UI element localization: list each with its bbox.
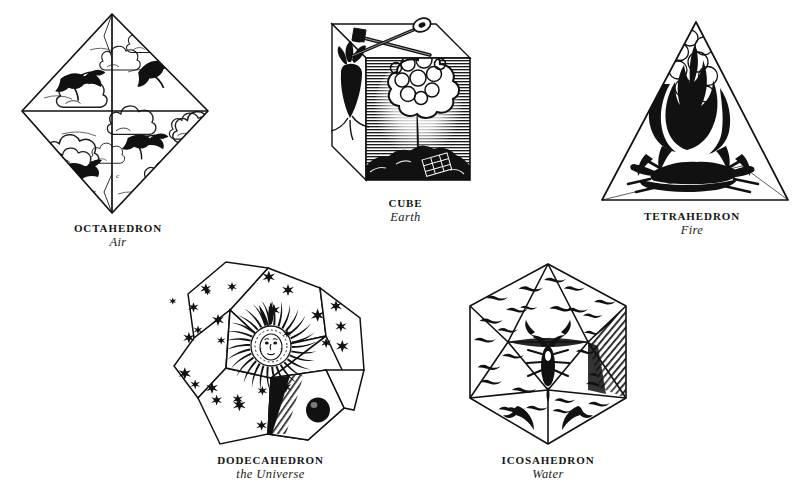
- figure-cube: CUBE Earth: [318, 6, 493, 224]
- cube-front-face: [366, 50, 470, 180]
- icosahedron-illustration: [448, 258, 648, 453]
- sun-face: [260, 334, 282, 360]
- dodecahedron-illustration: [168, 258, 373, 453]
- solid-element: Air: [74, 236, 162, 249]
- caption-octahedron: OCTAHEDRON Air: [74, 223, 162, 249]
- solid-name: OCTAHEDRON: [74, 223, 162, 235]
- svg-text:c: c: [116, 172, 119, 180]
- caption-tetrahedron: TETRAHEDRON Fire: [644, 211, 740, 237]
- octahedron-illustration: c: [8, 6, 228, 221]
- solid-element: Water: [501, 468, 594, 481]
- tetrahedron-illustration: [592, 14, 792, 209]
- figure-icosahedron: ICOSAHEDRON Water: [448, 258, 648, 481]
- solid-name: DODECAHEDRON: [217, 455, 324, 467]
- cube-illustration: [318, 6, 493, 196]
- caption-icosahedron: ICOSAHEDRON Water: [501, 455, 594, 481]
- solid-element: Fire: [644, 224, 740, 237]
- octahedron-faces: c: [8, 6, 228, 221]
- solid-element: the Universe: [217, 468, 324, 481]
- solid-name: CUBE: [388, 198, 422, 210]
- fire-motif: [592, 14, 792, 209]
- caption-cube: CUBE Earth: [388, 198, 422, 224]
- caption-dodecahedron: DODECAHEDRON the Universe: [217, 455, 324, 481]
- figure-tetrahedron: TETRAHEDRON Fire: [592, 14, 792, 237]
- moon-disc: [306, 398, 330, 423]
- figure-octahedron: c OCTAHEDRON Air: [8, 6, 228, 249]
- solid-name: TETRAHEDRON: [644, 211, 740, 223]
- solid-name: ICOSAHEDRON: [501, 455, 594, 467]
- solid-element: Earth: [388, 211, 422, 224]
- figure-dodecahedron: DODECAHEDRON the Universe: [168, 258, 373, 481]
- platonic-solids-plate: c OCTAHEDRON Air: [0, 0, 809, 498]
